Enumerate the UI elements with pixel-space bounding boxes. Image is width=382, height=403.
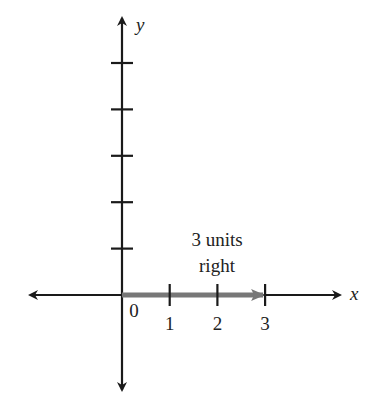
coordinate-plane: 0123 y x 3 units right <box>0 0 382 403</box>
x-tick-label-1: 1 <box>165 313 175 334</box>
x-axis-label: x <box>349 283 359 304</box>
y-axis-label: y <box>134 14 145 35</box>
translation-label-line2: right <box>199 255 236 276</box>
translation-label-line1: 3 units <box>191 229 242 250</box>
x-tick-label-3: 3 <box>260 313 270 334</box>
x-tick-label-2: 2 <box>213 313 223 334</box>
x-tick-label-0: 0 <box>129 300 139 321</box>
